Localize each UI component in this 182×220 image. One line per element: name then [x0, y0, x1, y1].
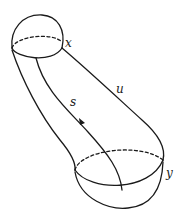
top-cap-front-edge	[12, 48, 62, 58]
top-cap-dome	[12, 15, 63, 48]
bottom-cap-back-edge	[75, 150, 163, 170]
label-x: x	[65, 36, 72, 50]
top-cap-back-edge	[12, 36, 62, 48]
label-y: y	[165, 166, 173, 180]
label-u: u	[116, 82, 124, 96]
bottom-cap-front-edge	[75, 160, 163, 185]
tube-left-side	[12, 50, 75, 170]
surface-diagram: x u s y	[0, 0, 182, 220]
label-s: s	[70, 95, 76, 109]
arrow-icon	[79, 118, 85, 125]
path-u	[62, 48, 164, 160]
